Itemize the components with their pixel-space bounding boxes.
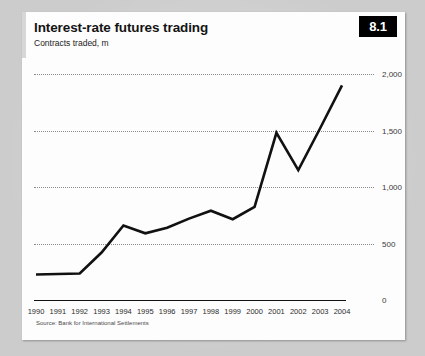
series-line-chart xyxy=(34,56,394,306)
x-axis-tick-label: 1997 xyxy=(181,307,198,316)
source-note: Source: Bank for International Settlemen… xyxy=(36,320,149,326)
header-left-rule xyxy=(22,12,26,58)
x-axis-tick-label: 1994 xyxy=(115,307,132,316)
x-axis-tick-label: 2000 xyxy=(246,307,263,316)
figure-number-badge: 8.1 xyxy=(359,16,397,37)
chart-card: Interest-rate futures trading Contracts … xyxy=(22,12,405,340)
x-axis-tick-label: 2003 xyxy=(312,307,329,316)
x-axis-tick-label: 1999 xyxy=(224,307,241,316)
plot-area: 05001,0001,5002,000 19901991199219931994… xyxy=(34,56,394,306)
x-axis-tick-label: 1996 xyxy=(159,307,176,316)
chart-subtitle: Contracts traded, m xyxy=(34,38,395,49)
chart-title: Interest-rate futures trading xyxy=(34,20,395,36)
x-axis-tick-label: 1990 xyxy=(28,307,45,316)
x-axis-tick-label: 1995 xyxy=(137,307,154,316)
x-axis-tick-label: 2002 xyxy=(290,307,307,316)
x-axis-tick-label: 1998 xyxy=(203,307,220,316)
x-axis-tick-label: 1992 xyxy=(71,307,88,316)
series-polyline xyxy=(36,85,342,274)
chart-header: Interest-rate futures trading Contracts … xyxy=(34,20,395,60)
x-axis-tick-label: 1993 xyxy=(93,307,110,316)
x-axis-tick-label: 2004 xyxy=(334,307,351,316)
x-axis-tick-label: 1991 xyxy=(50,307,67,316)
x-axis-tick-label: 2001 xyxy=(268,307,285,316)
page-background: Interest-rate futures trading Contracts … xyxy=(0,0,425,356)
